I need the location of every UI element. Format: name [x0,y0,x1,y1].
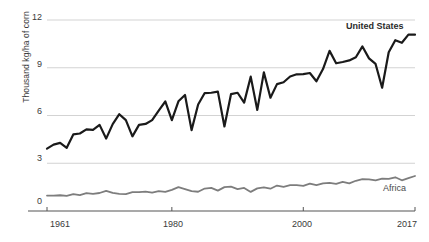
gridlines [47,20,415,163]
corn-yield-line-chart: Thousand kg/ha of corn 12 9 6 3 0 1961 1… [0,0,429,242]
series-line-united-states [47,35,415,149]
chart-plot-area [0,0,429,242]
x-axis-ticks [47,207,415,211]
series-line-africa [47,176,415,196]
